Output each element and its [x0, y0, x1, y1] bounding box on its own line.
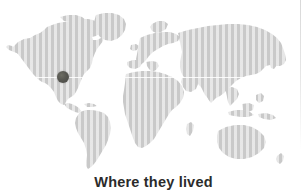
world-map-graphic [0, 0, 307, 172]
figure-caption: Where they lived [0, 173, 307, 191]
location-marker [57, 71, 69, 83]
world-map-figure: Where they lived [0, 0, 307, 194]
map-area [0, 0, 307, 172]
